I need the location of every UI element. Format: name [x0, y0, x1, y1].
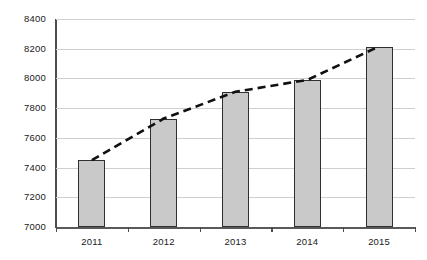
x-tick-mark	[200, 227, 201, 232]
y-tick-label: 7400	[0, 163, 46, 173]
x-tick-mark	[343, 227, 344, 232]
bar	[366, 47, 393, 228]
x-tick-label: 2015	[368, 236, 390, 247]
x-tick-mark	[415, 227, 416, 232]
x-tick-mark	[128, 227, 129, 232]
plot-area	[56, 19, 415, 227]
x-tick-label: 2011	[81, 236, 102, 247]
bar-chart: 70007200740076007800800082008400 2011201…	[0, 0, 427, 260]
x-tick-label: 2014	[296, 236, 318, 247]
x-tick-label: 2013	[225, 236, 247, 247]
x-axis: 20112012201320142015	[56, 227, 415, 260]
y-tick-label: 8000	[0, 74, 46, 84]
y-tick-label: 7200	[0, 193, 46, 203]
x-tick-mark	[271, 227, 272, 232]
y-tick-label: 7600	[0, 133, 46, 143]
y-tick-label: 7800	[0, 103, 46, 113]
bar	[294, 80, 321, 227]
bar	[78, 160, 105, 227]
y-tick-label: 7000	[0, 222, 46, 232]
bar	[150, 119, 177, 227]
bars-group	[56, 19, 415, 227]
y-tick-label: 8400	[0, 14, 46, 24]
x-tick-label: 2012	[153, 236, 175, 247]
x-tick-mark	[56, 227, 57, 232]
bar	[222, 92, 249, 227]
y-tick-label: 8200	[0, 44, 46, 54]
y-axis: 70007200740076007800800082008400	[0, 0, 46, 260]
